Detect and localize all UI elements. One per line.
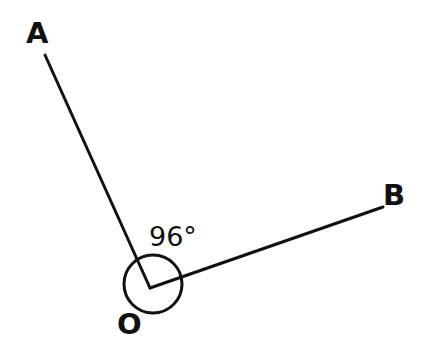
point-label-a: A [26, 19, 48, 48]
ray-oa [45, 55, 150, 288]
vertex-circle-marker [124, 255, 182, 313]
angle-measure-label: 96° [149, 223, 197, 250]
geometry-canvas [0, 0, 427, 362]
angle-diagram: A B O 96° [0, 0, 427, 362]
point-label-b: B [383, 181, 405, 210]
vertex-label-o: O [117, 310, 142, 339]
